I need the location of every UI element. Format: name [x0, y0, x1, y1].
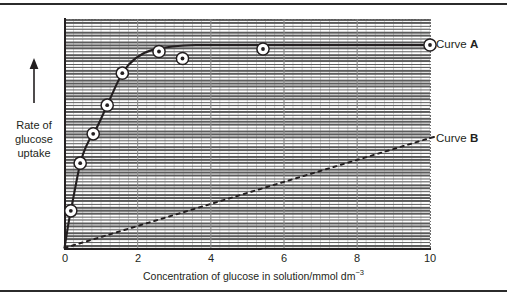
- plot-frame-top: [64, 19, 431, 20]
- bottom-rule: [0, 290, 507, 292]
- x-tick-8: 8: [342, 252, 372, 265]
- curve-b-prefix: Curve: [436, 132, 470, 144]
- y-axis-group: Rate of glucose uptake: [8, 58, 60, 160]
- x-axis-label-exponent: −3: [355, 268, 364, 277]
- x-tick-4: 4: [196, 252, 226, 265]
- plot-area: [64, 19, 430, 248]
- up-arrow-icon: [27, 58, 41, 104]
- x-tick-0: 0: [50, 252, 80, 265]
- curve-b-name: B: [470, 132, 478, 144]
- x-axis-line: [64, 248, 431, 250]
- x-axis-label-text: Concentration of glucose in solution/mmo…: [143, 270, 355, 282]
- curve-a-label: Curve A: [436, 38, 478, 50]
- top-rule: [0, 3, 507, 5]
- major-gridlines: [64, 19, 430, 248]
- curve-a-prefix: Curve: [436, 38, 470, 50]
- curve-b-label: Curve B: [436, 132, 478, 144]
- x-axis-label: Concentration of glucose in solution/mmo…: [0, 268, 507, 282]
- y-axis-label: Rate of glucose uptake: [8, 118, 60, 160]
- y-axis-line: [64, 18, 66, 249]
- grid-container: [64, 19, 430, 248]
- plot-frame-right: [430, 19, 431, 248]
- y-axis-label-line-1: Rate of: [8, 118, 60, 132]
- curve-a-name: A: [470, 38, 478, 50]
- x-tick-6: 6: [269, 252, 299, 265]
- y-axis-label-line-3: uptake: [8, 146, 60, 160]
- figure-container: Curve A Curve B 0 2 4 6 8 10 Concentrati…: [0, 0, 507, 301]
- x-tick-10: 10: [415, 252, 445, 265]
- y-axis-label-line-2: glucose: [8, 132, 60, 146]
- x-tick-2: 2: [123, 252, 153, 265]
